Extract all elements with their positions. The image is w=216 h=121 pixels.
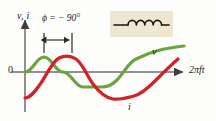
curve-current-i — [25, 56, 178, 99]
curve-label-voltage: v — [152, 47, 156, 57]
origin-label: 0 — [8, 65, 13, 75]
plot-canvas — [0, 0, 216, 121]
ac-inductor-phase-figure: v, i 2πft 0 ϕ = − 90° v i — [0, 0, 216, 121]
x-axis-label: 2πft — [189, 65, 205, 75]
phase-span-marker — [44, 33, 72, 53]
y-axis-label: v, i — [17, 11, 30, 21]
phase-angle-label: ϕ = − 90° — [42, 14, 80, 24]
curve-voltage-v — [25, 46, 184, 87]
curve-label-current: i — [128, 102, 131, 112]
